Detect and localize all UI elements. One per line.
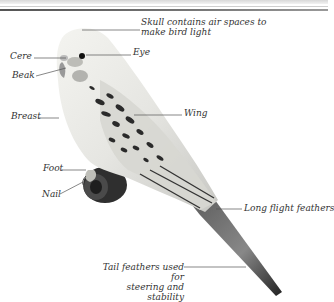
label-skull-line-1: Skull contains air spaces to bbox=[141, 17, 266, 27]
label-foot-text: Foot bbox=[43, 163, 63, 173]
label-cere-text: Cere bbox=[10, 51, 32, 61]
label-long-flight-feathers: Long flight feathers bbox=[244, 203, 334, 213]
label-skull-line-2: make bird light bbox=[141, 27, 266, 37]
label-wing: Wing bbox=[184, 108, 208, 118]
label-eye: Eye bbox=[133, 47, 150, 57]
label-breast-text: Breast bbox=[11, 111, 41, 121]
label-skull: Skull contains air spaces to make bird l… bbox=[141, 17, 266, 37]
label-beak: Beak bbox=[12, 70, 35, 80]
label-long-flight-feathers-text: Long flight feathers bbox=[244, 203, 334, 213]
label-cere: Cere bbox=[10, 51, 32, 61]
label-tail-feathers: Tail feathers used for steering and stab… bbox=[100, 262, 184, 302]
label-nail: Nail bbox=[42, 189, 61, 199]
label-tail-line-2: steering and stability bbox=[100, 282, 184, 302]
label-breast: Breast bbox=[11, 111, 41, 121]
label-foot: Foot bbox=[43, 163, 63, 173]
label-beak-text: Beak bbox=[12, 70, 35, 80]
label-wing-text: Wing bbox=[184, 108, 208, 118]
label-nail-text: Nail bbox=[42, 189, 61, 199]
eye-dot bbox=[79, 53, 85, 59]
label-eye-text: Eye bbox=[133, 47, 150, 57]
label-tail-line-1: Tail feathers used for bbox=[100, 262, 184, 282]
